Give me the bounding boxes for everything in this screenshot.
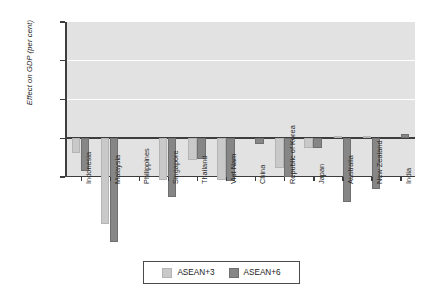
y-tick-mark [60, 60, 65, 61]
bar [255, 138, 263, 144]
bar-group [95, 22, 124, 177]
bar [217, 138, 225, 180]
x-tick-mark [110, 177, 111, 181]
bar-chart-figure: Effect on GDP (per cent) 1.51.00.50.0-0.… [0, 0, 444, 299]
legend-label-asean3: ASEAN+3 [177, 268, 214, 277]
legend-entry-asean6: ASEAN+6 [229, 268, 281, 278]
x-tick-mark [139, 177, 140, 181]
bar-group [241, 22, 270, 177]
bar [72, 138, 80, 153]
legend-swatch-asean6 [229, 268, 239, 278]
x-tick-mark [342, 177, 343, 181]
bar [401, 134, 409, 138]
x-tick-mark [284, 177, 285, 181]
bar [159, 138, 167, 180]
x-category-label: Indonesia [84, 152, 93, 184]
bar-series-container [66, 22, 415, 177]
x-tick-mark [197, 177, 198, 181]
x-tick-mark [400, 177, 401, 181]
bar-group [182, 22, 211, 177]
bar [110, 138, 118, 242]
legend-label-asean6: ASEAN+6 [244, 268, 281, 277]
x-category-label: Singapore [171, 150, 180, 184]
bar-group [299, 22, 328, 177]
y-axis-title: Effect on GDP (per cent) [25, 0, 34, 138]
chart-legend: ASEAN+3 ASEAN+6 [143, 261, 300, 284]
bar [313, 138, 321, 148]
x-tick-mark [226, 177, 227, 181]
bar [101, 138, 109, 223]
x-tick-mark [313, 177, 314, 181]
bar-group [328, 22, 357, 177]
bar [334, 136, 342, 138]
x-category-label: Japan [317, 164, 326, 184]
bar [275, 138, 283, 168]
x-category-label: Australia [346, 155, 355, 184]
x-category-label: China [258, 165, 267, 184]
legend-swatch-asean3 [162, 268, 172, 278]
x-category-label: Philippines [142, 148, 151, 184]
bar [363, 136, 371, 138]
y-tick-mark [60, 138, 65, 139]
x-tick-mark [255, 177, 256, 181]
x-tick-mark [81, 177, 82, 181]
y-tick-mark [60, 21, 65, 22]
x-category-label: Republic of Korea [288, 125, 297, 184]
bar [304, 138, 312, 147]
legend-entry-asean3: ASEAN+3 [162, 268, 214, 278]
x-tick-mark [168, 177, 169, 181]
bar-group [386, 22, 415, 177]
x-tick-mark [371, 177, 372, 181]
y-tick-mark [60, 99, 65, 100]
y-tick-mark [60, 176, 65, 177]
x-category-label: Malaysia [113, 155, 122, 184]
x-category-label: Viet Nam [229, 154, 238, 184]
x-category-label: New Zealand [375, 140, 384, 184]
x-category-label: India [404, 168, 413, 184]
bar [188, 138, 196, 160]
x-category-label: Thailand [200, 156, 209, 184]
